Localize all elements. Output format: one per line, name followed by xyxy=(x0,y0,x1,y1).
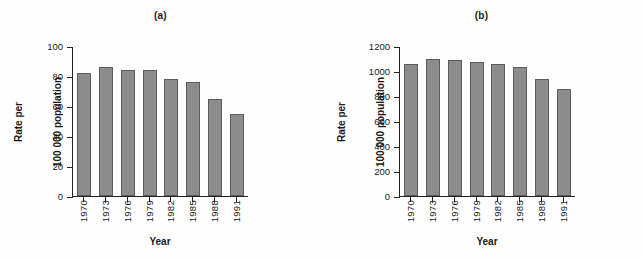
y-tick: 0 xyxy=(394,197,399,198)
chart-panel-b: (b) Rate per 100 000 population 02004006… xyxy=(321,0,642,258)
x-tick-label: 1973 xyxy=(427,200,438,222)
x-tick-label: 1988 xyxy=(209,200,220,222)
panel-b-x-axis-title: Year xyxy=(399,236,575,247)
y-tick-label: 1000 xyxy=(369,65,390,78)
y-tick-label: 20 xyxy=(52,160,63,173)
bar xyxy=(99,67,113,196)
x-tick-label: 1985 xyxy=(187,200,198,222)
y-tick: 100 xyxy=(67,47,72,48)
x-tick-label: 1991 xyxy=(231,200,242,222)
x-tick-label: 1976 xyxy=(449,200,460,222)
bar xyxy=(164,79,178,196)
bar xyxy=(77,73,91,196)
y-tick: 60 xyxy=(67,107,72,108)
y-tick: 0 xyxy=(67,197,72,198)
y-tick-label: 80 xyxy=(52,70,63,83)
y-tick: 400 xyxy=(394,147,399,148)
y-tick: 20 xyxy=(67,167,72,168)
panel-a-y-axis-title-line2: 100 000 population xyxy=(52,77,63,167)
x-tick-label: 1970 xyxy=(78,200,89,222)
panel-a-plot-area: 020406080100 xyxy=(72,47,247,197)
panel-a-title: (a) xyxy=(0,10,321,21)
panel-b-title: (b) xyxy=(321,10,642,21)
bar xyxy=(143,70,157,196)
chart-panel-a: (a) Rate per 100 000 population 02040608… xyxy=(0,0,321,258)
x-tick-label: 1973 xyxy=(100,200,111,222)
figure-root: (a) Rate per 100 000 population 02040608… xyxy=(0,0,643,258)
y-tick-label: 60 xyxy=(52,100,63,113)
x-tick-label: 1979 xyxy=(144,200,155,222)
bar xyxy=(230,114,244,197)
x-tick-label: 1976 xyxy=(122,200,133,222)
bar xyxy=(186,82,200,196)
x-tick-label: 1982 xyxy=(165,200,176,222)
panel-b-y-axis-title: Rate per 100 000 population xyxy=(339,47,369,197)
panel-a-y-axis-title: Rate per 100 000 population xyxy=(16,47,46,197)
y-tick: 600 xyxy=(394,122,399,123)
y-tick-label: 400 xyxy=(374,140,390,153)
y-tick-label: 0 xyxy=(58,190,63,203)
y-tick: 200 xyxy=(394,172,399,173)
y-tick: 80 xyxy=(67,77,72,78)
panel-b-bars-layer xyxy=(400,47,574,196)
x-tick-label: 1982 xyxy=(492,200,503,222)
x-tick-label: 1988 xyxy=(536,200,547,222)
panel-a-bars-layer xyxy=(73,47,247,196)
y-tick-label: 600 xyxy=(374,115,390,128)
panel-a-y-axis-title-line1: Rate per xyxy=(13,102,24,142)
y-tick-label: 40 xyxy=(52,130,63,143)
bar xyxy=(448,60,462,196)
y-tick: 1000 xyxy=(394,72,399,73)
bar xyxy=(121,70,135,196)
bar xyxy=(535,79,549,196)
x-tick-label: 1970 xyxy=(405,200,416,222)
y-tick-label: 800 xyxy=(374,90,390,103)
y-tick-label: 200 xyxy=(374,165,390,178)
panel-a-x-axis-title: Year xyxy=(72,236,248,247)
bar xyxy=(470,62,484,196)
panel-a-x-axis-line xyxy=(72,196,248,197)
bar xyxy=(491,64,505,196)
bar xyxy=(208,99,222,197)
y-tick-label: 1200 xyxy=(369,40,390,53)
panel-b-y-axis-title-line1: Rate per xyxy=(336,102,347,142)
y-tick-label: 100 xyxy=(47,40,63,53)
y-tick: 1200 xyxy=(394,47,399,48)
panel-b-plot-area: 020040060080010001200 xyxy=(399,47,574,197)
x-tick-label: 1991 xyxy=(558,200,569,222)
panel-b-x-axis-line xyxy=(399,196,575,197)
bar xyxy=(557,89,571,197)
y-tick-label: 0 xyxy=(385,190,390,203)
y-tick: 800 xyxy=(394,97,399,98)
bar xyxy=(426,59,440,197)
y-tick: 40 xyxy=(67,137,72,138)
x-tick-label: 1979 xyxy=(471,200,482,222)
bar xyxy=(513,67,527,196)
x-tick-label: 1985 xyxy=(514,200,525,222)
bar xyxy=(404,64,418,197)
